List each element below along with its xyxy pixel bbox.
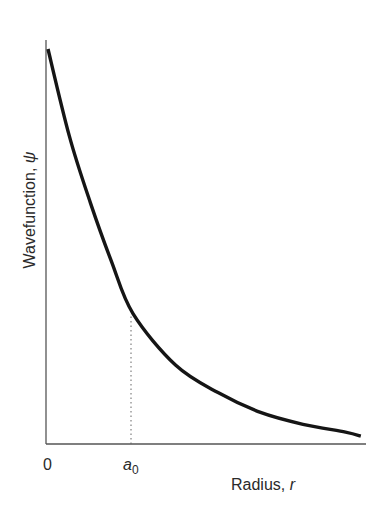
a-symbol: a <box>123 456 132 473</box>
x-axis-label: Radius, r <box>231 476 295 494</box>
r-symbol: r <box>290 476 295 493</box>
x-axis-label-text: Radius, <box>231 476 285 493</box>
x-tick-zero: 0 <box>43 456 52 474</box>
a-subscript: 0 <box>132 463 139 477</box>
wavefunction-chart <box>0 0 382 519</box>
wavefunction-curve <box>48 49 361 436</box>
y-axis-label: Wavefunction, ψ <box>21 152 39 269</box>
y-axis-label-text: Wavefunction, <box>21 168 38 269</box>
x-tick-a0: a0 <box>123 456 139 477</box>
psi-symbol: ψ <box>21 152 38 164</box>
